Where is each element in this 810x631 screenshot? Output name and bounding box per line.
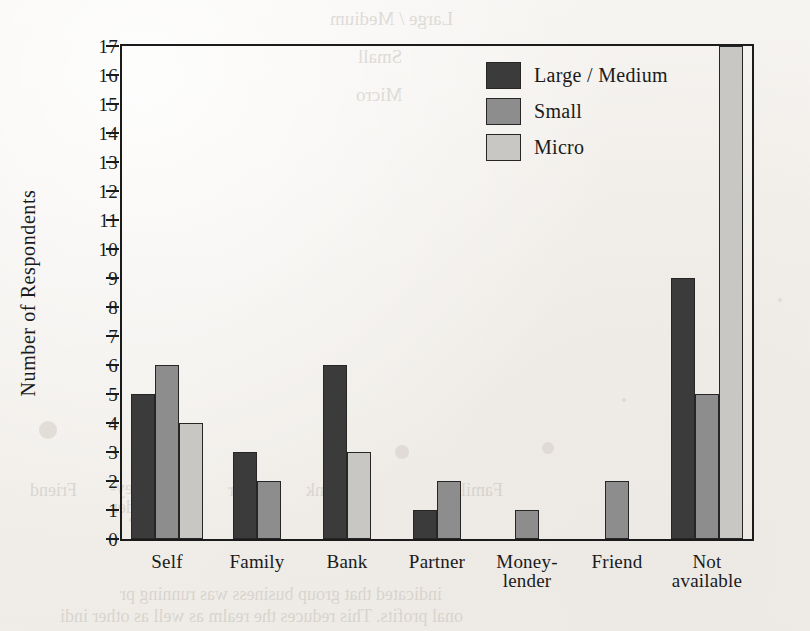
bar-group [233,46,281,539]
bar[interactable] [671,278,695,539]
y-axis-title: Number of Respondents [17,143,40,443]
y-tick-mark [106,103,119,105]
legend-item[interactable]: Small [486,98,668,125]
bar[interactable] [257,481,281,539]
x-tick-label: Friend [592,552,643,571]
bar[interactable] [605,481,629,539]
bar[interactable] [131,394,155,539]
bar[interactable] [323,365,347,539]
x-axis-tick-labels: SelfFamilyBankPartnerMoney- lenderFriend… [122,552,752,612]
x-tick-label: Not available [672,552,742,591]
bar[interactable] [155,365,179,539]
y-tick-mark [106,161,119,163]
x-tick-label: Money- lender [496,552,557,591]
y-tick-mark [106,393,119,395]
y-tick-mark [106,132,119,134]
legend-swatch [486,62,521,89]
bar-group [323,46,371,539]
y-tick-mark [106,451,119,453]
bar-chart-figure: Number of Respondents 012345678910111213… [0,0,810,631]
y-tick-mark [106,509,119,511]
y-tick-mark [106,422,119,424]
bar[interactable] [515,510,539,539]
y-tick-mark [106,538,119,540]
bar-group [413,46,461,539]
y-tick-mark [106,219,119,221]
y-tick-mark [106,190,119,192]
legend-swatch [486,134,521,161]
bar[interactable] [719,46,743,539]
legend-item[interactable]: Micro [486,134,668,161]
chart-legend: Large / MediumSmallMicro [486,62,668,161]
bar[interactable] [437,481,461,539]
legend-label: Large / Medium [534,64,668,87]
legend-label: Small [534,100,582,123]
y-axis-title-wrap: Number of Respondents [34,44,36,541]
y-tick-mark [106,45,119,47]
x-tick-label: Family [229,552,284,571]
legend-item[interactable]: Large / Medium [486,62,668,89]
bar[interactable] [347,452,371,539]
x-tick-label: Partner [409,552,465,571]
bar[interactable] [413,510,437,539]
legend-swatch [486,98,521,125]
x-tick-label: Self [151,552,182,571]
bar[interactable] [179,423,203,539]
y-axis-tick-marks [106,44,120,541]
bar-group [131,46,203,539]
y-tick-mark [106,335,119,337]
bar-group [671,46,743,539]
y-tick-mark [106,248,119,250]
legend-label: Micro [534,136,584,159]
bar[interactable] [233,452,257,539]
x-tick-label: Bank [327,552,368,571]
y-tick-mark [106,277,119,279]
y-tick-mark [106,364,119,366]
y-tick-mark [106,306,119,308]
y-tick-mark [106,480,119,482]
bar[interactable] [695,394,719,539]
y-tick-mark [106,74,119,76]
